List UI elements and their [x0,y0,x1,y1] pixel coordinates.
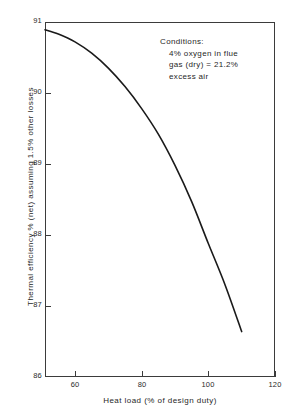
x-tick-label-120: 120 [263,380,287,389]
x-tick-120 [275,371,276,377]
x-tick-label-100: 100 [196,380,220,389]
y-tick-91 [45,22,51,23]
y-tick-88 [45,235,51,236]
conditions-line-1: 4% oxygen in flue [160,48,238,60]
thermal-efficiency-chart: 91 90 89 88 87 86 60 80 100 120 Heat loa… [0,0,298,419]
x-tick-100 [208,371,209,377]
x-tick-60 [75,371,76,377]
conditions-line-3: excess air [160,71,238,83]
y-tick-87 [45,306,51,307]
y-tick-90 [45,93,51,94]
y-axis-title: Thermal efficiency % (net) assuming 1.5%… [26,17,35,377]
x-tick-label-60: 60 [63,380,87,389]
y-tick-89 [45,164,51,165]
x-axis-title: Heat load (% of design duty) [45,396,275,405]
conditions-annotation: Conditions: 4% oxygen in flue gas (dry) … [160,36,238,82]
x-tick-label-80: 80 [130,380,154,389]
conditions-heading: Conditions: [160,36,238,48]
conditions-line-2: gas (dry) = 21.2% [160,59,238,71]
x-tick-80 [142,371,143,377]
